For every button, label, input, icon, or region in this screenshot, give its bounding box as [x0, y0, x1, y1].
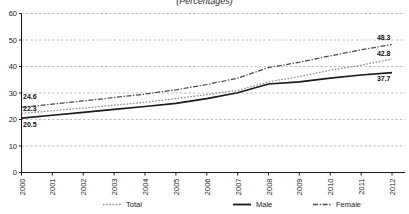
y-tick-label: 0 — [13, 168, 17, 177]
legend-label-female: Female — [336, 200, 361, 209]
line-chart: 0102030405060 20002001200220032004200520… — [0, 0, 409, 214]
data-label: 22.3 — [23, 105, 37, 112]
data-label: 24.6 — [23, 93, 37, 100]
x-tick-label: 2005 — [172, 179, 181, 196]
chart-container: (Percentages) 0102030405060 200020012002… — [0, 0, 409, 214]
y-tick-label: 30 — [9, 89, 17, 98]
y-tick-label: 20 — [9, 115, 17, 124]
gridlines-group — [22, 14, 406, 173]
x-tick-label: 2004 — [141, 179, 150, 196]
x-tick-label: 2000 — [18, 179, 27, 196]
data-label: 48.3 — [377, 34, 391, 41]
series-line-total — [22, 59, 393, 113]
data-label: 37.7 — [377, 75, 391, 82]
y-axis-ticks-group: 0102030405060 — [9, 9, 22, 177]
x-tick-label: 2012 — [388, 179, 397, 196]
x-axis-ticks-group: 2000200120022003200420052006200720082009… — [18, 173, 398, 196]
y-tick-label: 40 — [9, 62, 17, 71]
data-label: 42.8 — [377, 50, 391, 57]
x-tick-label: 2006 — [203, 179, 212, 196]
legend-label-total: Total — [126, 200, 142, 209]
x-tick-label: 2001 — [48, 179, 57, 196]
legend-label-male: Male — [256, 200, 272, 209]
legend-group: TotalMaleFemale — [103, 200, 361, 209]
x-tick-label: 2010 — [326, 179, 335, 196]
x-tick-label: 2002 — [79, 179, 88, 196]
y-tick-label: 10 — [9, 142, 17, 151]
series-group — [22, 45, 393, 119]
y-tick-label: 50 — [9, 36, 17, 45]
data-labels-group: 24.622.320.548.342.837.7 — [23, 34, 391, 128]
data-label: 20.5 — [23, 121, 37, 128]
series-line-male — [22, 73, 393, 119]
x-tick-label: 2011 — [357, 179, 366, 195]
x-tick-label: 2003 — [110, 179, 119, 196]
x-tick-label: 2008 — [265, 179, 274, 196]
x-tick-label: 2007 — [234, 179, 243, 196]
y-tick-label: 60 — [9, 9, 17, 18]
x-tick-label: 2009 — [295, 179, 304, 196]
